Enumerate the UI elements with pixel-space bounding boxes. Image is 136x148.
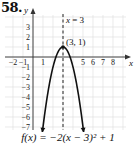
y-tick-label: −5: [21, 103, 30, 112]
x-tick-label: −2: [9, 58, 18, 67]
x-tick-label: 7: [101, 58, 105, 67]
y-tick-label: 1: [26, 43, 30, 52]
x-tick-label: 8: [111, 58, 115, 67]
y-tick-label: 2: [26, 33, 30, 42]
vertex-label: (3, 1): [66, 37, 86, 47]
function-graph: −2−115678321−1−2−3−4−5−6−7 xyx = 3(3, 1): [0, 0, 136, 132]
y-axis-arrow-icon: [31, 8, 36, 14]
x-tick-label: 6: [91, 58, 95, 67]
y-axis-label: y: [23, 5, 28, 15]
annotations: xyx = 3(3, 1): [23, 5, 133, 68]
y-tick-label: −6: [21, 113, 30, 122]
y-tick-label: −2: [21, 73, 30, 82]
symmetry-label: x = 3: [65, 15, 85, 25]
y-tick-label: 3: [26, 23, 30, 32]
y-tick-label: −1: [21, 63, 30, 72]
x-axis-label: x: [128, 58, 133, 68]
x-tick-label: 5: [81, 58, 85, 67]
function-equation: f(x) = −2(x − 3)² + 1: [0, 131, 136, 143]
vertex-point: [61, 45, 65, 49]
y-tick-label: −3: [21, 83, 30, 92]
x-tick-label: 1: [41, 58, 45, 67]
y-tick-label: −4: [21, 93, 30, 102]
tick-labels: −2−115678321−1−2−3−4−5−6−7: [9, 23, 115, 132]
